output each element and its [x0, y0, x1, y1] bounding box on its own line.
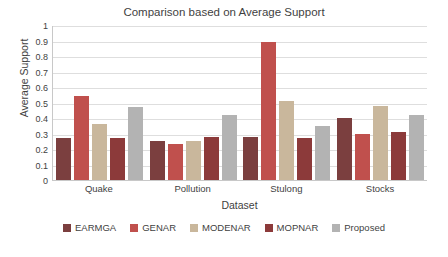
bar[interactable]	[279, 101, 294, 180]
chart-title: Comparison based on Average Support	[0, 6, 448, 18]
x-axis-tick-labels: QuakePollutionStulongStocks	[52, 183, 427, 194]
y-axis-tick-label: 0.5	[26, 99, 48, 109]
legend-label: EARMGA	[75, 222, 116, 233]
bar[interactable]	[150, 141, 165, 180]
legend: EARMGAGENARMODENARMOPNARProposed	[0, 222, 448, 233]
legend-swatch	[130, 224, 138, 232]
plot-area	[52, 26, 427, 181]
bar[interactable]	[261, 42, 276, 180]
bar[interactable]	[391, 132, 406, 180]
bar[interactable]	[297, 138, 312, 180]
bar[interactable]	[337, 118, 352, 180]
bar[interactable]	[204, 137, 219, 180]
legend-item[interactable]: MODENAR	[190, 222, 251, 233]
y-axis-tick-labels: 00.10.20.30.40.50.60.70.80.91	[20, 26, 48, 181]
chart-container: Comparison based on Average Support Aver…	[0, 0, 448, 257]
legend-item[interactable]: Proposed	[332, 222, 385, 233]
legend-swatch	[265, 224, 273, 232]
y-axis-tick-label: 0.3	[26, 130, 48, 140]
legend-label: MODENAR	[202, 222, 251, 233]
bar[interactable]	[128, 107, 143, 180]
y-axis-tick-label: 0.4	[26, 114, 48, 124]
bar-group	[334, 26, 428, 180]
legend-label: GENAR	[142, 222, 176, 233]
bar[interactable]	[186, 141, 201, 180]
y-axis-tick-label: 0.7	[26, 68, 48, 78]
legend-item[interactable]: GENAR	[130, 222, 176, 233]
bar[interactable]	[74, 96, 89, 180]
legend-item[interactable]: MOPNAR	[265, 222, 319, 233]
legend-label: MOPNAR	[277, 222, 319, 233]
bar[interactable]	[110, 138, 125, 180]
legend-item[interactable]: EARMGA	[63, 222, 116, 233]
x-axis-tick-label: Stulong	[240, 183, 334, 194]
bar[interactable]	[315, 126, 330, 180]
legend-swatch	[63, 224, 71, 232]
y-axis-tick-label: 1	[26, 21, 48, 31]
bar[interactable]	[243, 137, 258, 180]
y-axis-tick-label: 0.1	[26, 161, 48, 171]
bar[interactable]	[222, 115, 237, 180]
y-axis-tick-label: 0.8	[26, 52, 48, 62]
y-axis-tick-label: 0.2	[26, 145, 48, 155]
bar[interactable]	[56, 138, 71, 180]
x-axis-tick-label: Quake	[52, 183, 146, 194]
bar-group	[147, 26, 241, 180]
bar[interactable]	[92, 124, 107, 180]
bar-group	[53, 26, 147, 180]
legend-swatch	[332, 224, 340, 232]
y-axis-tick-label: 0	[26, 176, 48, 186]
x-axis-tick-label: Stocks	[333, 183, 427, 194]
bar-group	[240, 26, 334, 180]
bar[interactable]	[355, 134, 370, 181]
y-axis-tick-label: 0.6	[26, 83, 48, 93]
y-axis-tick-label: 0.9	[26, 37, 48, 47]
bar[interactable]	[409, 115, 424, 180]
x-axis-title: Dataset	[52, 199, 427, 211]
legend-swatch	[190, 224, 198, 232]
bar-groups	[53, 26, 427, 180]
bar[interactable]	[373, 106, 388, 180]
legend-label: Proposed	[344, 222, 385, 233]
x-axis-tick-label: Pollution	[146, 183, 240, 194]
bar[interactable]	[168, 144, 183, 180]
